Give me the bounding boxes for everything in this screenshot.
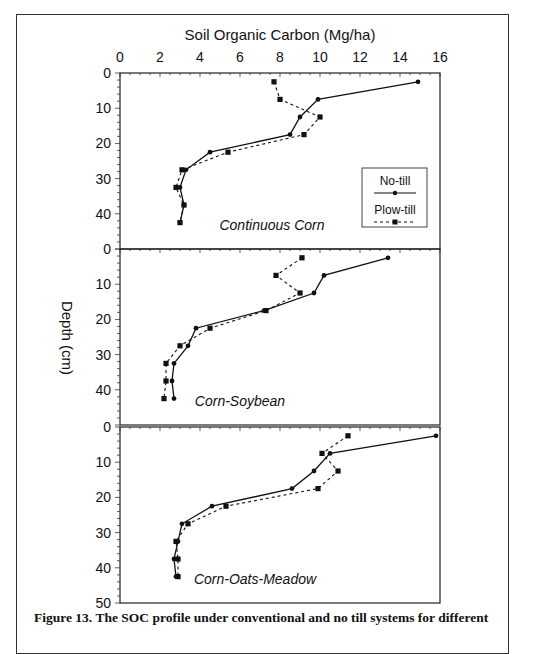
data-point-square	[185, 521, 190, 526]
x-tick-label: 2	[156, 49, 164, 65]
data-point-square	[271, 79, 276, 84]
y-tick-label: 20	[95, 135, 111, 151]
y-tick-label: 40	[95, 560, 111, 576]
data-point-circle	[186, 343, 191, 348]
data-point-square	[225, 150, 230, 155]
data-point-square	[161, 396, 166, 401]
data-point-square	[163, 361, 168, 366]
data-point-square	[299, 255, 304, 260]
chart-panels: 010203040Continuous Corn010203040Corn-So…	[95, 65, 440, 611]
data-point-circle	[208, 150, 213, 155]
y-tick-label: 0	[103, 419, 111, 435]
data-point-square	[173, 185, 178, 190]
data-point-circle	[180, 521, 185, 526]
data-point-circle	[288, 132, 293, 137]
data-point-square	[273, 273, 278, 278]
x-tick-label: 0	[116, 49, 124, 65]
panel-corn-oats-meadow: 01020304050Corn-Oats-Meadow	[95, 419, 440, 611]
y-tick-label: 10	[95, 100, 111, 116]
data-point-square	[163, 378, 168, 383]
x-tick-label: 14	[392, 49, 408, 65]
data-point-circle	[172, 396, 177, 401]
data-point-circle	[172, 361, 177, 366]
panel-corn-soybean: 010203040Corn-Soybean	[95, 241, 440, 425]
y-axis-title: Depth (cm)	[59, 301, 76, 375]
panel-label: Corn-Oats-Meadow	[194, 571, 317, 587]
y-tick-label: 30	[95, 347, 111, 363]
data-point-square	[179, 167, 184, 172]
data-point-square	[317, 114, 322, 119]
data-point-square	[345, 433, 350, 438]
data-point-square	[315, 486, 320, 491]
y-tick-label: 40	[95, 382, 111, 398]
x-tick-label: 16	[432, 49, 448, 65]
data-point-square	[181, 202, 186, 207]
x-axis-tick-labels: 0246810121416	[116, 49, 448, 65]
data-point-square	[173, 539, 178, 544]
panel-label: Corn-Soybean	[195, 393, 285, 409]
data-point-circle	[416, 79, 421, 84]
y-tick-label: 20	[95, 489, 111, 505]
legend: No-till Plow-till	[362, 168, 427, 227]
x-tick-label: 4	[196, 49, 204, 65]
x-tick-label: 6	[236, 49, 244, 65]
data-point-circle	[328, 451, 333, 456]
y-tick-label: 10	[95, 454, 111, 470]
data-point-circle	[322, 273, 327, 278]
y-tick-label: 30	[95, 525, 111, 541]
y-tick-label: 10	[95, 276, 111, 292]
data-point-circle	[312, 469, 317, 474]
data-point-circle	[386, 255, 391, 260]
y-tick-label: 50	[95, 595, 111, 611]
x-tick-label: 8	[276, 49, 284, 65]
data-point-square	[301, 132, 306, 137]
data-point-circle	[298, 115, 303, 120]
x-tick-label: 12	[352, 49, 368, 65]
x-tick-label: 10	[312, 49, 328, 65]
data-point-square	[319, 451, 324, 456]
legend-square-marker-icon	[393, 220, 398, 225]
y-tick-label: 20	[95, 311, 111, 327]
data-point-square	[297, 290, 302, 295]
y-tick-label: 0	[103, 65, 111, 81]
data-point-square	[207, 326, 212, 331]
data-point-circle	[170, 379, 175, 384]
data-point-circle	[434, 433, 439, 438]
panel-label: Continuous Corn	[219, 217, 324, 233]
series-line-plow-till	[176, 82, 320, 223]
data-point-circle	[210, 504, 215, 509]
data-point-square	[175, 574, 180, 579]
data-point-square	[277, 97, 282, 102]
y-tick-label: 40	[95, 206, 111, 222]
data-point-circle	[290, 486, 295, 491]
data-point-square	[223, 504, 228, 509]
legend-label-plow-till: Plow-till	[374, 203, 415, 217]
data-point-square	[177, 220, 182, 225]
data-point-square	[177, 343, 182, 348]
y-tick-label: 30	[95, 171, 111, 187]
series-line-plow-till	[164, 258, 302, 399]
figure-caption: Figure 13. The SOC profile under convent…	[34, 610, 488, 626]
data-point-circle	[194, 326, 199, 331]
data-point-circle	[312, 291, 317, 296]
data-point-circle	[316, 97, 321, 102]
legend-label-no-till: No-till	[380, 174, 411, 188]
legend-circle-marker-icon	[393, 191, 397, 195]
data-point-square	[175, 556, 180, 561]
x-axis-title: Soil Organic Carbon (Mg/ha)	[185, 26, 376, 43]
y-tick-label: 0	[103, 241, 111, 257]
data-point-square	[335, 468, 340, 473]
series-line-plow-till	[176, 436, 348, 577]
data-point-square	[263, 308, 268, 313]
